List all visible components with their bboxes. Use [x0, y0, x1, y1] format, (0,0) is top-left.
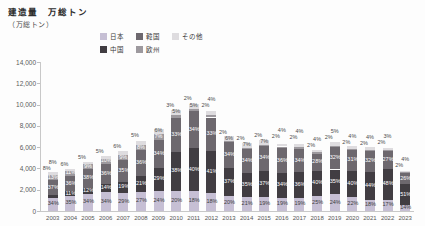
bar: 18%41%33%: [206, 109, 216, 211]
bar-segment-label: 38%: [83, 175, 93, 181]
bar-segment-label: 28%: [312, 159, 322, 165]
bar-segment: [277, 147, 287, 148]
bar-segment: [48, 172, 58, 175]
y-tick-mark: [37, 126, 40, 127]
bar-segment-label: 19%: [294, 201, 304, 207]
segment-float-label: 8%: [49, 160, 57, 166]
bar-segment: [330, 146, 340, 147]
bar-segment-label: 40%: [189, 167, 199, 173]
y-tick-label: 2,000: [4, 186, 36, 193]
bar-segment-label: 20%: [224, 200, 234, 206]
x-tick-label: 2018: [308, 215, 326, 221]
bar-segment-label: 7%: [154, 134, 164, 140]
x-axis-line: [40, 211, 414, 212]
legend-label: その他: [182, 31, 203, 41]
bar-segment: [118, 151, 128, 155]
bar: 19%36%34%: [294, 141, 304, 211]
segment-float-label: 2%: [289, 135, 297, 141]
legend-row: 中国欧州: [100, 44, 203, 54]
legend-label: 日本: [110, 31, 124, 41]
bar-segment-label: 36%: [65, 181, 75, 187]
x-tick-label: 2011: [185, 215, 203, 221]
bar-segment-label: 31%: [347, 157, 357, 163]
segment-float-label: 2%: [219, 130, 227, 136]
x-tick-label: 2015: [255, 215, 273, 221]
segment-float-label: 2%: [378, 140, 386, 146]
bar-segment-label: 24%: [330, 200, 340, 206]
bar-segment-label: 32%: [365, 158, 375, 164]
segment-float-label: 4%: [366, 135, 374, 141]
bar-segment: [312, 152, 322, 153]
bar: 25%40%28%: [312, 149, 322, 211]
bar-segment-label: 26%: [400, 176, 410, 182]
segment-float-label: 4%: [401, 157, 409, 163]
bar-segment-label: 18%: [365, 202, 375, 208]
bar-segment: [242, 148, 252, 149]
x-tick-label: 2004: [61, 215, 79, 221]
bar-segment-label: 34%: [277, 182, 287, 188]
bar-segment-label: 35%: [330, 179, 340, 185]
bar-segment-label: 34%: [259, 155, 269, 161]
bar-segment-label: 40%: [347, 181, 357, 187]
bar-segment-label: 5%: [189, 103, 199, 109]
x-tick-label: 2003: [44, 215, 62, 221]
x-tick-label: 2022: [379, 215, 397, 221]
segment-float-label: 2%: [201, 103, 209, 109]
bar-segment: [101, 156, 111, 159]
bar-segment: [48, 195, 58, 198]
bar-segment-label: 29%: [154, 176, 164, 182]
bar-segment-label: 10%: [101, 158, 111, 164]
bar-segment-label: 40%: [312, 180, 322, 186]
bar-segment-label: 35%: [242, 182, 252, 188]
bar-segment: [189, 109, 199, 111]
segment-float-label: 6%: [113, 144, 121, 150]
bar-segment-label: 32%: [330, 155, 340, 161]
legend-swatch: [136, 46, 143, 53]
bar-segment-label: 11%: [65, 170, 75, 176]
legend-swatch: [100, 33, 107, 40]
bar: 34%14%36%10%: [101, 155, 111, 211]
bar: 34%12%38%9%: [83, 161, 93, 211]
y-axis-unit: （万総トン）: [8, 19, 53, 29]
y-tick-label: 0: [4, 208, 36, 215]
y-tick-mark: [37, 190, 40, 191]
y-tick-mark: [37, 147, 40, 148]
bar-segment-label: 7%: [259, 139, 269, 145]
bar: 24%29%34%7%6%: [154, 129, 164, 211]
bar-segment-label: 25%: [312, 200, 322, 206]
legend-label: 欧州: [146, 44, 160, 54]
bar-segment: [347, 146, 357, 149]
legend-swatch: [172, 33, 179, 40]
x-tick-label: 2014: [238, 215, 256, 221]
bar-segment: [312, 150, 322, 152]
x-tick-label: 2006: [97, 215, 115, 221]
y-tick-mark: [37, 105, 40, 106]
segment-float-label: 8%: [43, 166, 51, 172]
bar-segment-label: 34%: [224, 152, 234, 158]
bar-segment-label: 36%: [101, 171, 111, 177]
segment-float-label: 4%: [348, 134, 356, 140]
bar-segment-label: 36%: [294, 182, 304, 188]
x-tick-label: 2020: [343, 215, 361, 221]
bar-segment: [206, 111, 216, 115]
y-tick-mark: [37, 211, 40, 212]
y-tick-mark: [37, 168, 40, 169]
bar-segment-label: 35%: [65, 200, 75, 206]
bar-segment-label: 37%: [259, 181, 269, 187]
legend-item: 中国: [100, 44, 124, 54]
segment-float-label: 3%: [166, 103, 174, 109]
y-tick-mark: [37, 83, 40, 84]
legend-item: 欧州: [136, 44, 160, 54]
segment-float-label: 3%: [384, 134, 392, 140]
bar: 24%35%32%: [330, 141, 340, 211]
segment-float-label: 2%: [360, 141, 368, 147]
bar-segment-label: 24%: [154, 198, 164, 204]
bar-segment: [65, 169, 75, 172]
bar-segment-label: 20%: [171, 198, 181, 204]
segment-float-label: 6%: [60, 162, 68, 168]
y-tick-label: 4,000: [4, 165, 36, 172]
bar-segment-label: 27%: [136, 198, 146, 204]
bar: 35%11%36%11%: [65, 168, 75, 211]
bar-segment-label: 34%: [294, 158, 304, 164]
bar-segment-label: 34%: [101, 199, 111, 205]
